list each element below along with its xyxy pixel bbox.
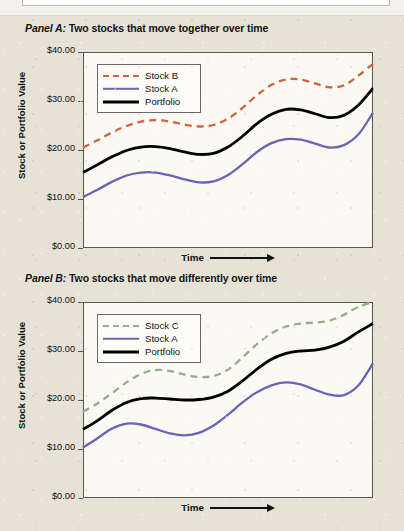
legend-item-stock-a: Stock A — [103, 82, 194, 95]
legend-item-stock-a: Stock A — [103, 332, 194, 345]
panel-b-x-axis-text: Time — [181, 502, 204, 513]
time-arrow-icon — [210, 254, 275, 262]
panel-b-legend: Stock C Stock A Portfolio — [97, 314, 201, 363]
panel-a-ytick-label-40: $40.00 — [47, 45, 75, 55]
panel-a-ytick-label-20: $20.00 — [47, 143, 75, 153]
panel-b-ytick-label-10: $10.00 — [47, 442, 75, 452]
panel-a-ytick-label-10: $10.00 — [47, 192, 75, 202]
stock-a-line-icon — [103, 83, 139, 94]
legend-label-stock-b: Stock B — [145, 70, 178, 81]
panel-b-x-axis-label: Time — [83, 502, 373, 513]
panel-b: Panel B: Two stocks that move differentl… — [0, 272, 404, 531]
legend-label-stock-a: Stock A — [145, 83, 178, 94]
panel-b-ytick-label-30: $30.00 — [47, 344, 75, 354]
legend-label-stock-a-b: Stock A — [145, 333, 178, 344]
portfolio-line-icon — [103, 96, 139, 107]
panel-a-ytick-label-0: $0.00 — [52, 241, 75, 251]
panel-a-x-axis-label: Time — [83, 252, 373, 263]
portfolio-line-icon — [103, 346, 139, 357]
stock-b-line-icon — [103, 70, 139, 81]
panel-a-y-axis-label: Stock or Portfolio Value — [16, 56, 27, 196]
panel-b-plot: Stock or Portfolio Value $40.00 $30.00 $… — [0, 272, 404, 531]
time-arrow-icon — [210, 504, 275, 512]
panel-a-legend: Stock B Stock A Portfolio — [97, 64, 201, 113]
panel-b-ytick-label-0: $0.00 — [52, 491, 75, 501]
stock-c-line-icon — [103, 320, 139, 331]
panel-b-ytick-label-20: $20.00 — [47, 393, 75, 403]
panel-b-ytick-label-40: $40.00 — [47, 295, 75, 305]
tick-mark-icon — [78, 248, 83, 249]
stock-a-line-icon — [103, 333, 139, 344]
panel-a: Panel A: Two stocks that move together o… — [0, 22, 404, 274]
legend-label-stock-c: Stock C — [145, 320, 179, 331]
page-top-strip — [0, 0, 404, 16]
legend-label-portfolio-b: Portfolio — [145, 346, 180, 357]
panel-a-x-axis-text: Time — [181, 252, 204, 263]
legend-item-portfolio: Portfolio — [103, 95, 194, 108]
page-top-box — [22, 0, 390, 6]
panel-b-y-axis-label: Stock or Portfolio Value — [16, 306, 27, 446]
panel-a-plot: Stock or Portfolio Value $40.00 $30.00 $… — [0, 22, 404, 274]
legend-label-portfolio: Portfolio — [145, 96, 180, 107]
tick-mark-icon — [78, 498, 83, 499]
legend-item-stock-b: Stock B — [103, 69, 194, 82]
legend-item-stock-c: Stock C — [103, 319, 194, 332]
panel-a-ytick-label-30: $30.00 — [47, 94, 75, 104]
legend-item-portfolio: Portfolio — [103, 345, 194, 358]
